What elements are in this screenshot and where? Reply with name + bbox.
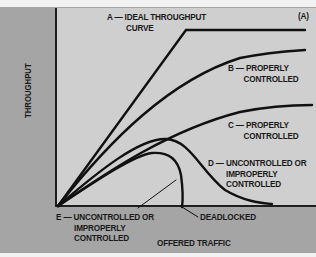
panel-tag: (A) (298, 11, 309, 22)
curve-a-label: A — IDEAL THROUGHPUT CURVE (107, 12, 206, 33)
curve-e-label: E — UNCONTROLLED OR IMPROPERLY CONTROLLE… (56, 212, 154, 244)
leader-line-deadlocked (182, 207, 198, 217)
deadlocked-label: DEADLOCKED (200, 212, 256, 223)
curve-c-label: C — PROPERLY CONTROLLED (228, 120, 298, 141)
curve-d-label: D — UNCONTROLLED OR IMPROPERLY CONTROLLE… (208, 158, 306, 190)
x-axis-label: OFFERED TRAFFIC (157, 238, 231, 249)
curve-b-label: B — PROPERLY CONTROLLED (228, 63, 298, 84)
y-axis-label: THROUGHPUT (23, 63, 33, 118)
leader-line-e (138, 180, 176, 208)
